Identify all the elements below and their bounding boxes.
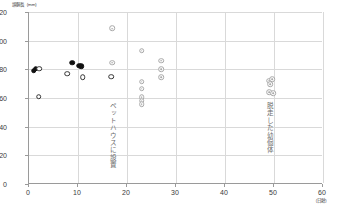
gridline-vertical (225, 12, 226, 183)
gridline-vertical (78, 12, 79, 183)
data-point-open-circle (36, 94, 42, 100)
x-tick-mark (175, 184, 176, 187)
x-tick-label: 60 (318, 189, 326, 196)
data-point-gray-donut (139, 86, 145, 92)
data-point-gray-donut (110, 60, 116, 66)
data-point-filled-circle (69, 60, 75, 66)
y-tick-label: 20 (0, 152, 7, 159)
data-point-gray-donut (267, 82, 273, 88)
y-tick-label: 60 (0, 95, 7, 102)
x-tick-mark (322, 184, 323, 187)
gridline-vertical (127, 12, 128, 183)
x-tick-mark (28, 184, 29, 187)
y-tick-label: 0 (3, 181, 7, 188)
data-point-gray-donut (139, 48, 145, 54)
x-tick-label: 30 (171, 189, 179, 196)
x-tick-label: 0 (26, 189, 30, 196)
plot-area: ペットハウスに設置脱走した幼個体 (28, 12, 322, 184)
gridline-vertical (176, 12, 177, 183)
data-point-open-circle (80, 74, 86, 80)
x-tick-label: 50 (269, 189, 277, 196)
x-tick-label: 10 (73, 189, 81, 196)
data-point-open-circle (109, 74, 115, 80)
data-point-gray-donut (159, 67, 165, 73)
data-point-gray-donut (139, 102, 145, 108)
y-tick-label: 100 (0, 37, 7, 44)
data-point-open-circle (36, 66, 42, 72)
data-point-gray-donut (139, 79, 145, 85)
data-point-filled-circle (78, 64, 84, 70)
y-tick-label: 120 (0, 9, 7, 16)
x-tick-mark (126, 184, 127, 187)
chart-annotation: ペットハウスに設置 (109, 102, 116, 169)
x-tick-label: 20 (122, 189, 130, 196)
x-tick-mark (273, 184, 274, 187)
x-tick-mark (77, 184, 78, 187)
chart-annotation: 脱走した幼個体 (266, 102, 273, 154)
y-tick-label: 40 (0, 123, 7, 130)
x-tick-mark (224, 184, 225, 187)
data-point-open-circle (64, 71, 70, 77)
scatter-chart: 頭胴長（mm） （日齢） 020406080100120 01020304050… (0, 0, 338, 209)
gridline-vertical (274, 12, 275, 183)
x-tick-label: 40 (220, 189, 228, 196)
gridline-vertical (323, 12, 324, 183)
y-tick-label: 80 (0, 66, 7, 73)
data-point-gray-donut (159, 74, 165, 80)
data-point-gray-donut (159, 58, 165, 64)
data-point-gray-donut (270, 90, 276, 96)
data-point-gray-donut (110, 26, 116, 32)
